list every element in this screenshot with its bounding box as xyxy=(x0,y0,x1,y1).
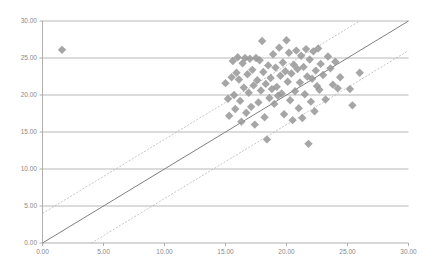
y-tick-label: 10.00 xyxy=(21,165,38,172)
chart-canvas: 0.005.0010.0015.0020.0025.0030.00 0.005.… xyxy=(0,0,427,271)
y-tick-label: 25.00 xyxy=(21,54,38,61)
x-tick-label: 10.00 xyxy=(156,248,173,255)
x-tick-label: 5.00 xyxy=(97,248,110,255)
x-axis-tick-labels: 0.005.0010.0015.0020.0025.0030.00 xyxy=(36,248,417,255)
x-tick-label: 15.00 xyxy=(217,248,234,255)
y-tick-label: 15.00 xyxy=(21,128,38,135)
y-tick-label: 0.00 xyxy=(24,239,37,246)
x-tick-label: 0.00 xyxy=(36,248,49,255)
x-tick-label: 30.00 xyxy=(400,248,417,255)
scatter-chart: 0.005.0010.0015.0020.0025.0030.00 0.005.… xyxy=(0,0,427,271)
y-tick-label: 20.00 xyxy=(21,91,38,98)
y-axis-tick-labels: 0.005.0010.0015.0020.0025.0030.00 xyxy=(21,17,38,246)
x-tick-label: 20.00 xyxy=(278,248,295,255)
y-tick-label: 5.00 xyxy=(24,202,37,209)
x-tick-label: 25.00 xyxy=(339,248,356,255)
y-tick-label: 30.00 xyxy=(21,17,38,24)
